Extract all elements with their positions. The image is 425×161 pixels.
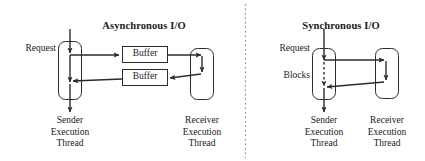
sync-sender-thread-line-1: Sender (305, 115, 344, 127)
async-buffer-label-1: Buffer (133, 48, 158, 58)
sync-panel-title: Synchronous I/O (302, 20, 379, 31)
async-sender-thread-line-1: Sender (51, 115, 90, 127)
async-request-label: Request (25, 43, 56, 54)
async-receiver-thread-line-1: Receiver (183, 115, 222, 127)
async-sender-thread-line-3: Thread (51, 138, 90, 150)
sync-receiver-to-sender-arrow (327, 82, 384, 87)
async-receiver-thread-line-3: Thread (183, 138, 222, 150)
async-buffer-label-2: Buffer (133, 71, 158, 81)
sync-sender-thread-line-2: Execution (305, 127, 344, 139)
sync-blocks-label: Blocks (284, 70, 310, 81)
diagram-canvas: Asynchronous I/O Request Buffer Buffer S… (0, 0, 425, 161)
sync-sender-thread-label: Sender Execution Thread (305, 115, 344, 150)
sync-sender-thread-line-3: Thread (305, 138, 344, 150)
async-receiver-thread-line-2: Execution (183, 127, 222, 139)
async-sender-thread-line-2: Execution (51, 127, 90, 139)
sync-sender-lifeline-box (313, 49, 336, 100)
async-receiver-to-buffer-arrow (170, 74, 201, 78)
async-buffer-to-sender-arrow (73, 79, 122, 81)
sync-receiver-thread-line-1: Receiver (368, 115, 407, 127)
async-sender-lifeline-box (59, 42, 82, 100)
sync-request-label: Request (279, 43, 310, 54)
async-receiver-lifeline-box (191, 49, 214, 100)
async-receiver-thread-label: Receiver Execution Thread (183, 115, 222, 150)
sync-receiver-thread-line-2: Execution (368, 127, 407, 139)
async-sender-thread-label: Sender Execution Thread (51, 115, 90, 150)
sync-receiver-thread-label: Receiver Execution Thread (368, 115, 407, 150)
sync-receiver-lifeline-box (376, 49, 399, 99)
async-panel-title: Asynchronous I/O (102, 20, 185, 31)
sync-receiver-thread-line-3: Thread (368, 138, 407, 150)
